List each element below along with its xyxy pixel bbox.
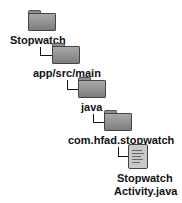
folder-icon [78,77,106,98]
folder-icon [104,110,132,131]
file-label-line1: Stopwatch [117,172,173,184]
folder-icon [52,43,80,64]
folder-label-com-hfad-stopwatch: com.hfad.stopwatch [68,134,174,146]
folder-icon [28,10,56,31]
java-file-icon [128,144,148,169]
file-label-line2: Activity.java [114,185,177,197]
folder-label-java: java [81,101,102,113]
